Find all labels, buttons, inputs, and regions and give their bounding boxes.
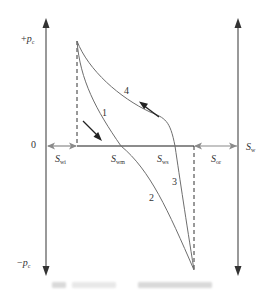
subscript: c (28, 263, 31, 269)
sws-label: Sws (157, 154, 169, 165)
axis-arrow-up-icon (235, 18, 242, 28)
subscript: w (251, 147, 255, 153)
left-vertical-axis (43, 18, 50, 276)
subscript: or (216, 159, 221, 165)
sor-label: Sor (211, 154, 221, 165)
swm-label: Swm (111, 154, 125, 165)
subscript: ws (162, 159, 169, 165)
right-vertical-axis (235, 18, 242, 276)
positive-pc-label: +pc (21, 34, 34, 45)
axis-arrow-down-icon (43, 266, 50, 276)
subscript: wi (60, 159, 66, 165)
curve-1-primary-drainage (77, 41, 121, 146)
negative-pc-label: −pc (17, 258, 30, 269)
axis-arrow-down-icon (235, 266, 242, 276)
drainage-direction-arrow (83, 121, 102, 141)
curve-2-label: 2 (149, 193, 154, 203)
axis-arrow-up-icon (43, 18, 50, 28)
figure-caption-illegible (52, 282, 212, 288)
sw-axis-label: Sw (246, 142, 255, 153)
curve-3-label: 3 (172, 177, 177, 187)
sor-double-arrow (194, 143, 237, 150)
curve-3-imbibition-negative (175, 146, 194, 270)
imbibition-direction-arrow (139, 102, 159, 118)
curve-1-label: 1 (102, 108, 107, 118)
swi-label: Swi (55, 154, 66, 165)
curve-4-label: 4 (124, 86, 129, 96)
origin-label: 0 (31, 140, 36, 150)
subscript: wm (116, 159, 125, 165)
hysteresis-diagram (0, 0, 266, 292)
subscript: c (32, 39, 35, 45)
swi-double-arrow (47, 143, 77, 150)
